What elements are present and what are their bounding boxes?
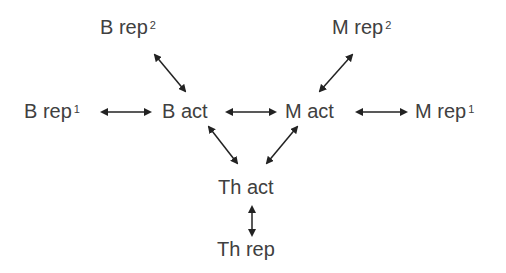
- arrow-bact-thact: [209, 127, 237, 163]
- node-superscript: 2: [385, 19, 391, 31]
- node-label: M rep: [332, 16, 383, 38]
- node-superscript: 1: [74, 103, 80, 115]
- node-label: M act: [285, 100, 334, 122]
- arrow-brep2-bact: [155, 55, 185, 91]
- node-th-rep: Th rep: [217, 239, 275, 259]
- node-superscript: 1: [468, 103, 474, 115]
- arrow-mact-thact: [267, 127, 297, 163]
- node-label: B rep: [24, 100, 72, 122]
- node-m-rep1: M rep1: [415, 101, 474, 121]
- node-b-act: B act: [162, 101, 208, 121]
- node-label: M rep: [415, 100, 466, 122]
- node-m-rep2: M rep2: [332, 17, 391, 37]
- node-label: B act: [162, 100, 208, 122]
- node-b-rep1: B rep1: [24, 101, 80, 121]
- node-label: Th rep: [217, 238, 275, 260]
- node-m-act: M act: [285, 101, 334, 121]
- node-b-rep2: B rep2: [100, 17, 156, 37]
- arrow-mrep2-mact: [320, 55, 352, 91]
- node-label: B rep: [100, 16, 148, 38]
- node-label: Th act: [218, 176, 274, 198]
- node-th-act: Th act: [218, 177, 274, 197]
- node-superscript: 2: [150, 19, 156, 31]
- arrows-layer: [0, 0, 506, 273]
